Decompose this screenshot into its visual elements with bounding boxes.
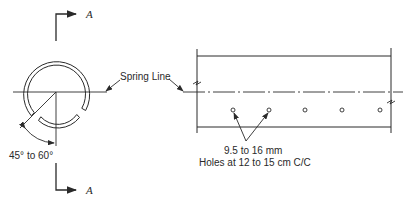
drain-hole: [231, 108, 235, 112]
section-marker-bottom: [56, 163, 76, 190]
hole-size-label: 9.5 to 16 mm: [224, 145, 282, 156]
drain-hole: [267, 108, 271, 112]
angle-label: 45° to 60°: [9, 150, 53, 161]
drain-hole: [303, 108, 307, 112]
drain-holes: [231, 108, 382, 112]
section-label-top: A: [86, 9, 93, 20]
pipe-longitudinal-view: [193, 48, 395, 133]
section-label-bottom: A: [86, 185, 93, 196]
drain-hole: [378, 108, 382, 112]
angle-reference-line: [20, 92, 56, 128]
section-marker-top: [56, 14, 76, 41]
spring-line-label: Spring Line: [120, 71, 171, 82]
spring-line-leader-left: [106, 80, 120, 91]
drainage-pipe-diagram: [0, 0, 411, 203]
hole-spacing-label: Holes at 12 to 15 cm C/C: [199, 157, 311, 168]
spring-line-leader-right: [169, 79, 183, 91]
drain-hole: [340, 108, 344, 112]
pipe-cross-section: [24, 62, 90, 128]
angle-dimension-arc: [25, 128, 54, 143]
